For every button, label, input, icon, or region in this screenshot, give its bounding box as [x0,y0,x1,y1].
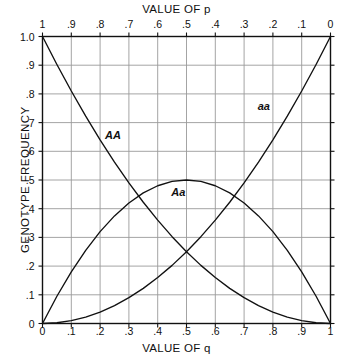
bottom-tick-label: .1 [60,326,82,337]
top-tick-label: .1 [291,19,313,30]
bottom-tick-label: .9 [291,326,313,337]
top-tick-label: .6 [147,19,169,30]
bottom-tick-label: .6 [204,326,226,337]
bottom-tick-label: .7 [233,326,255,337]
bottom-tick-label: 0 [32,326,54,337]
top-tick-label: .5 [176,19,198,30]
left-tick-label: .5 [11,175,35,186]
curve-annotation-Aa: Aa [171,187,185,198]
bottom-tick-label: 1 [320,326,342,337]
left-tick-label: 0 [11,319,35,330]
top-tick-label: .7 [118,19,140,30]
left-tick-label: .8 [11,89,35,100]
left-tick-label: .2 [11,261,35,272]
top-tick-label: .3 [233,19,255,30]
top-tick-label: 0 [320,19,342,30]
bottom-tick-label: .4 [147,326,169,337]
left-tick-label: .7 [11,118,35,129]
bottom-tick-label: .5 [176,326,198,337]
genotype-frequency-chart: VALUE OF p VALUE OF q GENOTYPE FREQUENCY… [0,0,353,361]
plot-area [0,0,353,361]
curve-annotation-AA: AA [105,130,121,141]
top-tick-label: .9 [60,19,82,30]
bottom-tick-label: .2 [89,326,111,337]
left-tick-label: .1 [11,290,35,301]
left-tick-label: .3 [11,232,35,243]
bottom-tick-label: .3 [118,326,140,337]
left-tick-label: .9 [11,60,35,71]
bottom-tick-label: .8 [262,326,284,337]
left-tick-label: .4 [11,204,35,215]
top-axis-title: VALUE OF p [0,4,353,16]
curve-annotation-aa: aa [258,101,270,112]
top-tick-label: .2 [262,19,284,30]
bottom-axis-title: VALUE OF q [0,343,353,355]
left-tick-label: 1.0 [11,32,35,43]
top-tick-label: .8 [89,19,111,30]
top-tick-label: 1 [32,19,54,30]
left-tick-label: .6 [11,146,35,157]
top-tick-label: .4 [204,19,226,30]
